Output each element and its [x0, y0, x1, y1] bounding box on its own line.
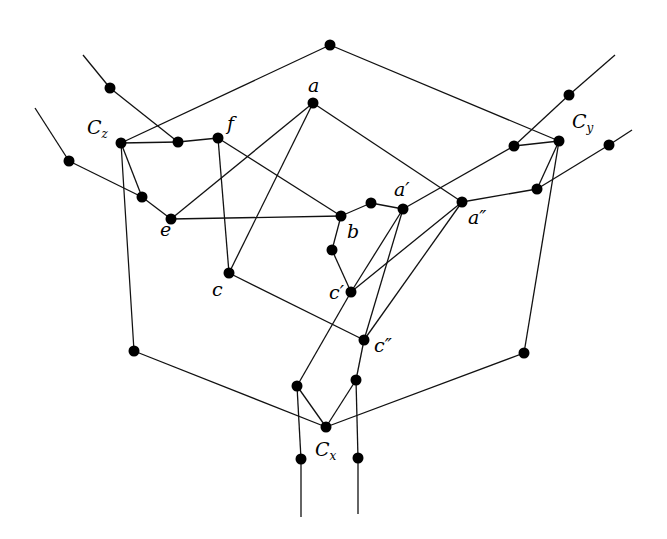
label-cx: Cx [315, 438, 337, 463]
node-Cz [116, 138, 127, 149]
node-br [519, 348, 530, 359]
edge-c1-xl [297, 292, 351, 386]
edge-yl-Cy [514, 141, 559, 146]
node-dr [353, 453, 364, 464]
edge-Cz-zf [121, 142, 178, 143]
node-ul [105, 83, 116, 94]
edge-zf-f [178, 138, 218, 142]
edge-xl-dl [297, 386, 301, 459]
edge-stub-l [35, 108, 69, 161]
node-xl [292, 381, 303, 392]
node-c1 [346, 287, 357, 298]
graph-diagram: a a′ a″ b c c′ c″ e f Cz Cy Cx [0, 0, 667, 539]
node-f [213, 133, 224, 144]
label-cz: Cz [87, 116, 109, 141]
edge-a-a2 [313, 103, 462, 202]
node-yr [532, 184, 543, 195]
edge-f-b [218, 138, 341, 216]
edge-f-c [218, 138, 229, 273]
node-r [604, 140, 615, 151]
node-bb [327, 245, 338, 256]
edge-c2-xr [356, 340, 364, 380]
node-a [308, 98, 319, 109]
label-e: e [160, 218, 171, 240]
node-yl [509, 141, 520, 152]
edge-a1-c2 [364, 209, 403, 340]
label-a-double-prime: a″ [468, 206, 486, 228]
node-c2 [359, 335, 370, 346]
node-Cx [321, 422, 332, 433]
nodes [64, 40, 615, 465]
edge-ul-zf [110, 88, 178, 142]
edge-a-e [171, 103, 313, 219]
edge-a-c [229, 103, 313, 273]
edge-xr-dr [356, 380, 358, 458]
edge-a2-c1 [351, 202, 462, 292]
node-dl [296, 454, 307, 465]
node-a1 [398, 204, 409, 215]
edge-Cy-br [524, 141, 559, 353]
label-c: c [212, 278, 223, 300]
node-top [325, 40, 336, 51]
edge-a2-yr [462, 189, 537, 202]
node-l [64, 156, 75, 167]
label-a-prime: a′ [394, 178, 410, 200]
label-f: f [225, 112, 237, 134]
node-Cy [554, 136, 565, 147]
edge-yr-r [537, 145, 609, 189]
node-zf [173, 137, 184, 148]
label-c-double-prime: c″ [374, 334, 392, 356]
edge-a2-c2 [364, 202, 462, 340]
node-ba [366, 198, 377, 209]
edge-stub-ur [569, 55, 615, 95]
edge-Cz-top [121, 45, 330, 143]
edge-stub-ul [83, 55, 110, 88]
label-b: b [347, 220, 359, 242]
edge-top-Cy [330, 45, 559, 141]
label-a: a [308, 74, 319, 96]
node-zl [137, 192, 148, 203]
edge-l-zl [69, 161, 142, 197]
edge-Cz-bl [121, 143, 134, 351]
node-bl [129, 346, 140, 357]
label-c-prime: c′ [329, 281, 345, 303]
node-ur [564, 90, 575, 101]
node-b [336, 211, 347, 222]
node-a2 [457, 197, 468, 208]
node-c [224, 268, 235, 279]
label-cy: Cy [572, 110, 594, 135]
node-xr [351, 375, 362, 386]
edge-xr-Cx [326, 380, 356, 427]
